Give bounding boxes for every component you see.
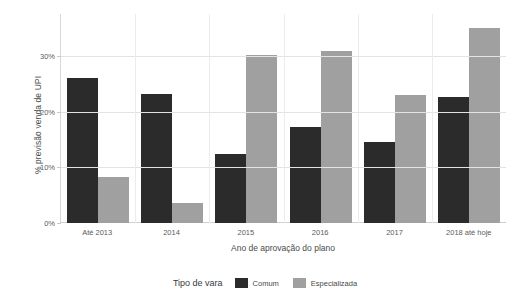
x-axis-tick-label: 2015 [209, 228, 283, 237]
y-axis-tick-label: 10% [40, 163, 55, 172]
bar-chart: % previsão venda de UPI 0%10%20%30% Até … [0, 0, 530, 305]
x-axis-tick-label: 2017 [357, 228, 431, 237]
gridline-vertical [135, 14, 136, 223]
bar-group [358, 14, 432, 223]
bar[interactable] [321, 51, 352, 223]
gridline-vertical [284, 14, 285, 223]
x-axis-tick-label: 2014 [134, 228, 208, 237]
y-axis-tick-mark [57, 167, 61, 168]
legend-item[interactable]: Especializada [293, 278, 357, 288]
gridline-vertical [432, 14, 433, 223]
bar[interactable] [364, 142, 395, 223]
x-axis-tick-labels: Até 201320142015201620172018 até hoje [60, 228, 506, 237]
bar[interactable] [98, 177, 129, 223]
y-axis-tick-mark [57, 56, 61, 57]
legend-item[interactable]: Comum [235, 278, 279, 288]
legend-swatch [235, 278, 248, 288]
legend: Tipo de vara ComumEspecializada [0, 278, 530, 288]
x-axis-tick-label: 2016 [283, 228, 357, 237]
legend-title: Tipo de vara [173, 278, 223, 288]
bar[interactable] [67, 78, 98, 223]
legend-label: Comum [253, 279, 279, 288]
bar-group [209, 14, 283, 223]
y-axis-tick-label: 0% [44, 219, 55, 228]
legend-entries: ComumEspecializada [235, 278, 358, 288]
legend-label: Especializada [311, 279, 357, 288]
plot-area: 0%10%20%30% [60, 14, 506, 223]
bar[interactable] [290, 127, 321, 223]
bar-group [284, 14, 358, 223]
gridline-vertical [358, 14, 359, 223]
x-axis-title: Ano de aprovação do plano [60, 243, 506, 253]
x-axis-tick-label: 2018 até hoje [432, 228, 506, 237]
x-axis-tick-label: Até 2013 [60, 228, 134, 237]
legend-swatch [293, 278, 306, 288]
y-axis-tick-mark [57, 112, 61, 113]
y-axis-tick-label: 30% [40, 52, 55, 61]
bar[interactable] [215, 154, 246, 223]
bar-group [135, 14, 209, 223]
bar-group [61, 14, 135, 223]
bar[interactable] [172, 203, 203, 223]
bar[interactable] [246, 55, 277, 223]
y-axis-tick-label: 20% [40, 107, 55, 116]
bar[interactable] [395, 95, 426, 223]
bar[interactable] [438, 97, 469, 223]
bar[interactable] [141, 94, 172, 223]
y-axis-tick-mark [57, 223, 61, 224]
bar-group [432, 14, 506, 223]
gridline-vertical [209, 14, 210, 223]
